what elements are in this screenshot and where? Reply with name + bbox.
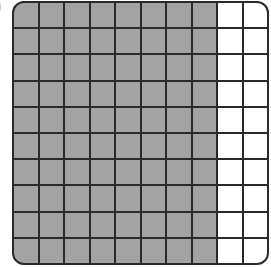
empty-cell bbox=[218, 160, 242, 184]
empty-cell bbox=[218, 82, 242, 106]
empty-cell bbox=[218, 55, 242, 79]
shaded-cell bbox=[193, 82, 217, 106]
empty-cell bbox=[244, 239, 268, 263]
shaded-cell bbox=[40, 55, 64, 79]
shaded-cell bbox=[65, 239, 89, 263]
shaded-cell bbox=[193, 29, 217, 53]
shaded-cell bbox=[91, 160, 115, 184]
empty-cell bbox=[218, 29, 242, 53]
shaded-cell bbox=[65, 29, 89, 53]
shaded-cell bbox=[142, 239, 166, 263]
shaded-cell bbox=[40, 213, 64, 237]
shaded-cell bbox=[14, 160, 38, 184]
shaded-cell bbox=[91, 239, 115, 263]
shaded-cell bbox=[91, 55, 115, 79]
shaded-cell bbox=[167, 186, 191, 210]
shaded-cell bbox=[193, 160, 217, 184]
shaded-cell bbox=[14, 29, 38, 53]
shaded-cell bbox=[65, 82, 89, 106]
shaded-cell bbox=[65, 213, 89, 237]
shaded-cell bbox=[40, 239, 64, 263]
shaded-cell bbox=[142, 186, 166, 210]
shaded-cell bbox=[116, 239, 140, 263]
empty-cell bbox=[218, 3, 242, 27]
shaded-cell bbox=[91, 29, 115, 53]
empty-cell bbox=[218, 186, 242, 210]
shaded-cell bbox=[40, 3, 64, 27]
shaded-cell bbox=[193, 3, 217, 27]
shaded-cell bbox=[193, 239, 217, 263]
empty-cell bbox=[218, 239, 242, 263]
shaded-cell bbox=[116, 134, 140, 158]
empty-cell bbox=[244, 108, 268, 132]
shaded-cell bbox=[40, 82, 64, 106]
shaded-cell bbox=[142, 134, 166, 158]
shaded-cell bbox=[167, 239, 191, 263]
shaded-cell bbox=[193, 108, 217, 132]
shaded-cell bbox=[167, 29, 191, 53]
empty-cell bbox=[244, 186, 268, 210]
shaded-cell bbox=[142, 3, 166, 27]
shaded-cell bbox=[65, 160, 89, 184]
shaded-cell bbox=[142, 108, 166, 132]
shaded-cell bbox=[14, 213, 38, 237]
shaded-cell bbox=[193, 134, 217, 158]
shaded-cell bbox=[14, 82, 38, 106]
shaded-cell bbox=[167, 108, 191, 132]
shaded-cell bbox=[193, 186, 217, 210]
empty-cell bbox=[244, 82, 268, 106]
empty-cell bbox=[244, 213, 268, 237]
shaded-cell bbox=[14, 239, 38, 263]
shaded-cell bbox=[14, 134, 38, 158]
shaded-cell bbox=[14, 186, 38, 210]
shaded-cell bbox=[116, 29, 140, 53]
shaded-cell bbox=[40, 108, 64, 132]
empty-cell bbox=[218, 213, 242, 237]
shaded-cell bbox=[142, 29, 166, 53]
shaded-cell bbox=[40, 186, 64, 210]
shaded-cell bbox=[91, 3, 115, 27]
shaded-cell bbox=[116, 82, 140, 106]
shaded-cell bbox=[91, 82, 115, 106]
shaded-cell bbox=[142, 160, 166, 184]
hundred-grid bbox=[12, 1, 269, 265]
shaded-cell bbox=[40, 134, 64, 158]
shaded-cell bbox=[65, 55, 89, 79]
shaded-cell bbox=[167, 213, 191, 237]
shaded-cell bbox=[167, 3, 191, 27]
shaded-cell bbox=[142, 82, 166, 106]
shaded-cell bbox=[142, 55, 166, 79]
shaded-cell bbox=[116, 186, 140, 210]
shaded-cell bbox=[40, 29, 64, 53]
shaded-cell bbox=[116, 3, 140, 27]
shaded-cell bbox=[14, 108, 38, 132]
shaded-cell bbox=[167, 134, 191, 158]
shaded-cell bbox=[193, 213, 217, 237]
shaded-cell bbox=[65, 3, 89, 27]
empty-cell bbox=[244, 55, 268, 79]
shaded-cell bbox=[116, 213, 140, 237]
shaded-cell bbox=[116, 108, 140, 132]
shaded-cell bbox=[65, 134, 89, 158]
shaded-cell bbox=[91, 134, 115, 158]
empty-cell bbox=[244, 29, 268, 53]
shaded-cell bbox=[14, 55, 38, 79]
shaded-cell bbox=[142, 213, 166, 237]
shaded-cell bbox=[91, 213, 115, 237]
empty-cell bbox=[218, 108, 242, 132]
shaded-cell bbox=[116, 55, 140, 79]
shaded-cell bbox=[193, 55, 217, 79]
partial-label-mark: ) bbox=[0, 0, 2, 14]
shaded-cell bbox=[167, 55, 191, 79]
shaded-cell bbox=[167, 160, 191, 184]
shaded-cell bbox=[14, 3, 38, 27]
shaded-cell bbox=[91, 108, 115, 132]
empty-cell bbox=[218, 134, 242, 158]
empty-cell bbox=[244, 3, 268, 27]
shaded-cell bbox=[65, 108, 89, 132]
empty-cell bbox=[244, 134, 268, 158]
shaded-cell bbox=[91, 186, 115, 210]
shaded-cell bbox=[116, 160, 140, 184]
empty-cell bbox=[244, 160, 268, 184]
shaded-cell bbox=[40, 160, 64, 184]
